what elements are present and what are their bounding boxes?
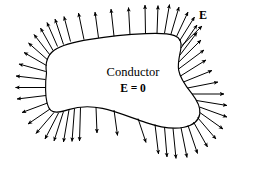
field-arrow bbox=[72, 109, 75, 142]
field-arrow bbox=[177, 12, 189, 37]
field-arrow bbox=[16, 76, 46, 80]
field-arrow bbox=[188, 126, 198, 154]
field-arrow bbox=[64, 110, 70, 142]
field-arrow bbox=[64, 17, 71, 42]
conductor-label: Conductor bbox=[107, 65, 161, 79]
field-arrow bbox=[197, 101, 228, 106]
figure-canvas: Conductor E = 0 E bbox=[0, 0, 269, 174]
field-arrow bbox=[171, 7, 179, 34]
field-arrow bbox=[181, 128, 187, 158]
field-arrow bbox=[181, 60, 207, 76]
field-arrow bbox=[157, 6, 158, 34]
field-arrow bbox=[165, 5, 170, 34]
field-arrow bbox=[111, 9, 114, 36]
field-arrow bbox=[17, 96, 46, 100]
field-arrow bbox=[114, 110, 118, 136]
field-arrow bbox=[96, 107, 97, 133]
field-arrow bbox=[55, 19, 64, 45]
field-arrow bbox=[165, 127, 168, 157]
exterior-field-label: E bbox=[199, 8, 207, 22]
field-arrow bbox=[179, 40, 201, 62]
field-arrow bbox=[95, 12, 99, 38]
field-arrow bbox=[24, 53, 47, 66]
field-arrow bbox=[34, 35, 50, 56]
field-arrow bbox=[45, 113, 59, 139]
field-arrow bbox=[19, 64, 46, 72]
field-arrow bbox=[145, 5, 146, 34]
field-arrow bbox=[173, 128, 176, 158]
field-arrow bbox=[180, 17, 195, 41]
field-arrow bbox=[200, 113, 223, 130]
field-arrow bbox=[155, 125, 159, 155]
arrow-group-left bbox=[16, 64, 47, 99]
field-arrow bbox=[184, 71, 213, 83]
field-arrow bbox=[129, 8, 131, 36]
field-arrow bbox=[36, 113, 54, 134]
conductor-field-figure: Conductor E = 0 E bbox=[0, 0, 269, 174]
interior-field-label: E = 0 bbox=[120, 82, 146, 94]
field-arrow bbox=[79, 13, 85, 40]
field-arrow bbox=[29, 43, 48, 60]
field-arrow bbox=[188, 82, 219, 88]
arrow-group-upper-right-notch bbox=[179, 25, 204, 69]
field-arrow bbox=[194, 122, 208, 147]
field-arrow bbox=[22, 103, 48, 113]
field-arrow bbox=[179, 50, 204, 69]
field-arrow bbox=[80, 107, 81, 141]
field-arrow bbox=[198, 118, 217, 140]
field-arrow bbox=[54, 112, 64, 142]
